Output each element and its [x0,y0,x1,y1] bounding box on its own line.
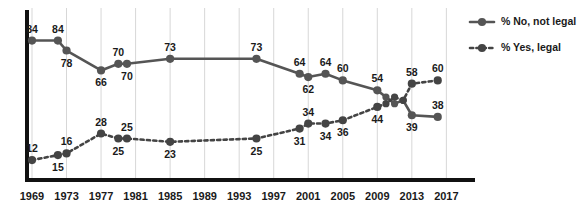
value-label: 23 [164,148,176,160]
x-tick-label: 1985 [158,190,182,202]
value-label: 64 [320,56,332,68]
data-point [123,60,131,68]
line-chart: 8484786670707373646264605439381215162825… [0,0,577,209]
data-point [373,86,381,94]
data-point [166,138,174,146]
value-label: 34 [302,106,314,118]
data-point [296,124,304,132]
value-label: 70 [112,46,124,58]
data-point [97,129,105,137]
data-point [166,55,174,63]
data-point [400,97,407,104]
legend-item-no-not-legal[interactable]: % No, not legal [470,15,576,27]
data-point [62,149,70,157]
value-label: 16 [61,135,73,147]
legend-label: % No, not legal [501,15,576,27]
value-label: 73 [164,41,176,53]
data-point [339,116,347,124]
data-point [54,151,62,159]
value-label: 60 [337,62,349,74]
chart-svg: 8484786670707373646264605439381215162825… [0,0,577,209]
value-label: 78 [61,57,73,69]
value-label: 25 [251,145,263,157]
x-tick-label: 1973 [54,190,78,202]
value-label: 84 [26,23,38,35]
legend-label: % Yes, legal [501,41,561,53]
data-point [382,93,389,100]
data-point [391,93,398,100]
value-label: 64 [294,56,306,68]
data-point [304,73,312,81]
data-point [434,113,442,121]
value-label: 25 [121,121,133,133]
value-label: 25 [112,145,124,157]
data-point [408,80,416,88]
data-point [304,119,312,127]
legend-swatch-marker [478,44,486,52]
data-point [123,134,131,142]
x-tick-label: 1977 [89,190,113,202]
value-label: 66 [95,76,107,88]
value-label: 36 [337,126,349,138]
data-point [391,100,398,107]
data-point [408,111,416,119]
data-point [114,60,122,68]
x-tick-label: 2009 [365,190,389,202]
value-label: 44 [371,113,383,125]
value-label: 15 [52,161,64,173]
x-tick-label: 1969 [20,190,44,202]
x-tick-label: 1989 [192,190,216,202]
data-point [252,55,260,63]
data-point [339,76,347,84]
data-point [434,76,442,84]
x-axis-tick-labels: 1969197319771981198519891993199720012005… [20,190,459,202]
value-label: 12 [26,142,38,154]
value-label: 39 [406,121,418,133]
chart-legend: % No, not legal% Yes, legal [470,15,576,53]
data-point [28,36,36,44]
data-point [114,134,122,142]
value-label: 38 [432,99,444,111]
value-label: 58 [406,66,418,78]
x-tick-label: 2017 [434,190,458,202]
data-point [373,103,381,111]
x-tick-label: 1981 [123,190,147,202]
value-label: 54 [371,72,383,84]
data-point [382,100,389,107]
value-label: 84 [52,23,64,35]
x-tick-label: 1993 [227,190,251,202]
data-point [252,134,260,142]
data-point [321,70,329,78]
data-point [62,46,70,54]
x-tick-label: 2013 [400,190,424,202]
legend-swatch-marker [478,18,486,26]
value-label: 60 [432,62,444,74]
data-point [97,66,105,74]
data-value-labels: 8484786670707373646264605439381215162825… [26,23,444,174]
value-label: 28 [95,116,107,128]
value-label: 73 [251,41,263,53]
data-point [321,119,329,127]
data-markers [28,36,442,164]
data-point [296,70,304,78]
x-tick-label: 2001 [296,190,320,202]
value-label: 31 [294,135,306,147]
value-label: 70 [121,70,133,82]
x-tick-label: 2005 [331,190,355,202]
data-point [28,156,36,164]
value-label: 34 [320,130,332,142]
legend-item-yes-legal[interactable]: % Yes, legal [470,41,561,53]
value-label: 62 [302,83,314,95]
data-point [54,36,62,44]
x-tick-label: 1997 [261,190,285,202]
